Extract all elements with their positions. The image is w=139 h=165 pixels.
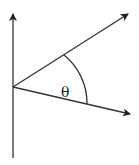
lower-ray-arrow bbox=[13, 87, 130, 114]
upper-ray-arrow bbox=[13, 14, 128, 87]
angle-diagram: θ bbox=[0, 0, 139, 165]
angle-label-theta: θ bbox=[61, 84, 69, 100]
